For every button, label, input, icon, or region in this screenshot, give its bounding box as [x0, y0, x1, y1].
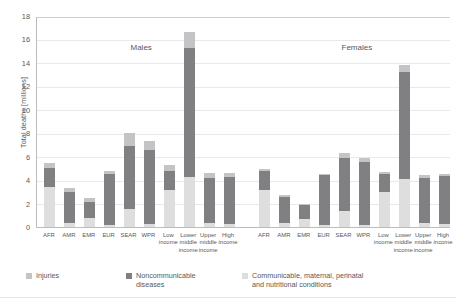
bar-females-high-income [439, 174, 450, 227]
bar-segment-1 [259, 171, 270, 189]
bar-segment-0 [399, 179, 410, 227]
bar-segment-0 [419, 223, 430, 227]
bar-segment-0 [339, 211, 350, 227]
legend-swatch-icon [242, 273, 248, 279]
y-tick-16: 16 [0, 36, 30, 43]
x-tick-line: income [426, 239, 456, 246]
bar-segment-0 [359, 225, 370, 227]
legend-swatch-icon [26, 273, 32, 279]
bar-segment-0 [84, 218, 95, 227]
x-tick-males-high-income: Highincome [211, 232, 245, 247]
chart-legend: InjuriesNoncommunicable diseasesCommunic… [26, 272, 446, 296]
bar-females-low-income [379, 172, 390, 227]
x-axis-tick-labels: AFRAMREMREURSEARWPRLowincomeLowermiddlei… [36, 230, 450, 270]
bar-segment-0 [204, 223, 215, 227]
legend-label: Injuries [36, 272, 59, 281]
y-tick-14: 14 [0, 60, 30, 67]
panel-caption-males: Males [131, 43, 152, 52]
bar-males-low-income [164, 165, 175, 227]
bar-segment-2 [184, 32, 195, 47]
bar-males-high-income [224, 173, 235, 227]
y-tick-8: 8 [0, 130, 30, 137]
bar-segment-1 [124, 146, 135, 209]
plot-area: Males Females [36, 17, 450, 228]
bar-segment-0 [439, 224, 450, 227]
bar-males-eur [104, 171, 115, 227]
bar-segment-1 [419, 178, 430, 224]
bar-segment-0 [144, 224, 155, 227]
bar-segment-2 [124, 133, 135, 146]
bottom-divider [0, 297, 456, 298]
bar-segment-1 [184, 48, 195, 177]
bar-segment-0 [319, 225, 330, 227]
bar-segment-1 [44, 168, 55, 187]
bar-segment-0 [224, 224, 235, 227]
bar-segment-1 [224, 177, 235, 224]
bar-females-amr [279, 195, 290, 227]
bar-segment-1 [399, 72, 410, 179]
bar-segment-1 [339, 158, 350, 211]
x-tick-females-high-income: Highincome [426, 232, 456, 247]
y-tick-0: 0 [0, 224, 30, 231]
bar-segment-0 [164, 190, 175, 228]
y-tick-10: 10 [0, 107, 30, 114]
bar-females-wpr [359, 158, 370, 227]
bar-segment-1 [299, 205, 310, 218]
bar-segment-0 [299, 219, 310, 227]
bar-males-lower-middle-income [184, 32, 195, 227]
y-tick-4: 4 [0, 177, 30, 184]
bar-males-emr [84, 198, 95, 227]
bar-males-sear [124, 133, 135, 227]
bar-segment-1 [439, 176, 450, 224]
bar-segment-0 [44, 187, 55, 227]
bar-females-emr [299, 204, 310, 227]
legend-item-1[interactable]: Noncommunicable diseases [126, 272, 196, 289]
bar-series-container [37, 17, 450, 227]
bar-segment-0 [64, 223, 75, 227]
bar-segment-2 [144, 141, 155, 150]
y-tick-6: 6 [0, 154, 30, 161]
bar-segment-1 [359, 162, 370, 225]
bar-segment-0 [124, 209, 135, 227]
bar-females-upper-middle-income [419, 175, 430, 227]
x-tick-line: High [211, 232, 245, 239]
bar-segment-1 [64, 192, 75, 223]
bar-males-afr [44, 163, 55, 227]
bar-segment-1 [279, 197, 290, 224]
legend-item-0[interactable]: Injuries [26, 272, 59, 281]
legend-label: Communicable, maternal, perinatal and nu… [252, 272, 363, 289]
bar-males-amr [64, 188, 75, 227]
bar-females-eur [319, 174, 330, 227]
bar-females-sear [339, 153, 350, 227]
legend-item-2[interactable]: Communicable, maternal, perinatal and nu… [242, 272, 363, 289]
bar-segment-2 [399, 65, 410, 72]
bar-segment-1 [204, 178, 215, 223]
bar-segment-0 [279, 223, 290, 227]
bar-segment-0 [184, 177, 195, 227]
y-tick-18: 18 [0, 13, 30, 20]
bar-segment-1 [104, 174, 115, 225]
panel-caption-females: Females [342, 43, 373, 52]
bar-segment-1 [84, 202, 95, 218]
legend-swatch-icon [126, 273, 132, 279]
bar-segment-1 [379, 174, 390, 192]
legend-label: Noncommunicable diseases [136, 272, 196, 289]
bar-females-afr [259, 169, 270, 227]
bar-segment-0 [104, 225, 115, 227]
chart-root: Total deaths [millions] 024681012141618 … [0, 0, 456, 300]
bar-segment-0 [379, 192, 390, 227]
bar-segment-1 [164, 171, 175, 190]
y-tick-2: 2 [0, 201, 30, 208]
bar-segment-0 [259, 190, 270, 228]
bar-males-wpr [144, 141, 155, 227]
bar-males-upper-middle-income [204, 173, 215, 227]
bar-segment-1 [319, 175, 330, 225]
bar-females-lower-middle-income [399, 65, 410, 227]
x-tick-line: income [406, 247, 440, 254]
x-tick-line: income [191, 247, 225, 254]
y-tick-12: 12 [0, 83, 30, 90]
x-tick-line: High [426, 232, 456, 239]
x-tick-line: income [211, 239, 245, 246]
bar-segment-1 [144, 150, 155, 224]
